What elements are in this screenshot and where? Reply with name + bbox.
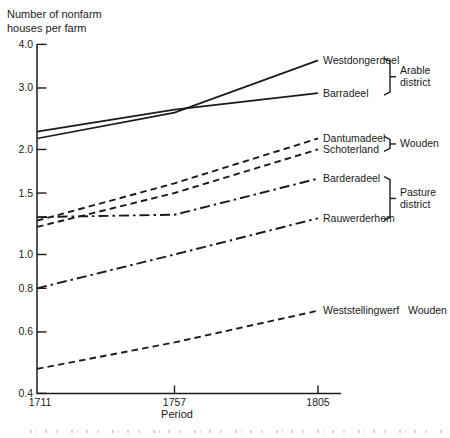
series-label-rauwerderhem: Rauwerderhem: [323, 212, 395, 224]
y-tick-label-4.0: 4.0: [18, 38, 33, 50]
series-line-barderadeel: [37, 179, 318, 218]
bracket-label-pasture-district-line2: district: [400, 198, 430, 210]
series-line-weststellingwerf: [37, 311, 318, 369]
series-label-weststellingwerf: Weststellingwerf: [323, 304, 399, 316]
x-axis-title: Period: [137, 408, 217, 420]
series-label-barderadeel: Barderadeel: [323, 172, 380, 184]
series-line-rauwerderhem: [37, 218, 318, 288]
x-tick-label-1711: 1711: [29, 396, 52, 408]
y-tick-label-0.6: 0.6: [18, 325, 33, 337]
y-tick-label-1.5: 1.5: [18, 187, 33, 199]
y-tick-label-2.0: 2.0: [18, 143, 33, 155]
series-line-schoterland: [37, 149, 318, 227]
x-tick-label-1757: 1757: [163, 396, 187, 408]
figure: Number of nonfarm houses per farm 4.03.0…: [0, 0, 450, 438]
bracket-label-arable-district-line1: Arable: [400, 64, 431, 76]
y-tick-label-0.8: 0.8: [18, 282, 33, 294]
y-tick-label-3.0: 3.0: [18, 81, 33, 93]
series-label-barradeel: Barradeel: [323, 87, 369, 99]
bracket-label-wouden-line1: Wouden: [400, 137, 439, 149]
series-label-schoterland: Schoterland: [323, 143, 379, 155]
bracket-label-pasture-district-line1: Pasture: [400, 186, 436, 198]
x-tick-label-1805: 1805: [306, 396, 330, 408]
y-tick-label-1.0: 1.0: [18, 248, 33, 260]
series-inline-group-label-weststellingwerf: Wouden: [408, 304, 447, 316]
series-line-westdongerdeel: [37, 60, 318, 138]
chart-svg: 4.03.02.01.51.00.80.60.4171117571805West…: [0, 0, 450, 438]
series-line-dantumadeel: [37, 139, 318, 221]
bracket-label-arable-district-line2: district: [400, 76, 430, 88]
cropped-caption-fragment: [30, 430, 442, 433]
